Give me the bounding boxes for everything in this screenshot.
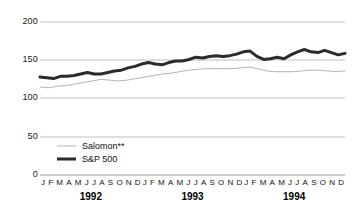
x-axis-month-tick: J — [143, 176, 147, 189]
series-line-salomon — [40, 67, 345, 88]
x-axis-month-tick: J — [288, 176, 292, 189]
x-axis-month-tick: O — [218, 176, 224, 189]
x-axis-month-tick: M — [260, 176, 267, 189]
x-axis-month-tick: M — [158, 176, 165, 189]
x-axis-month-tick: J — [244, 176, 248, 189]
x-axis-year-1992: 1992 — [40, 190, 142, 204]
x-axis-month-labels: JFMAMJJASONDJFMAMJJASONDJFMAMJJASOND — [40, 176, 345, 189]
x-axis-month-tick: M — [75, 176, 82, 189]
x-axis-year-1994: 1994 — [243, 190, 345, 204]
x-axis-year-labels: 1992 1993 1994 — [40, 190, 345, 204]
x-axis-month-tick: S — [311, 176, 316, 189]
x-axis-month-tick: D — [338, 176, 344, 189]
x-axis-month-tick: D — [135, 176, 141, 189]
x-axis-month-tick: A — [99, 176, 104, 189]
x-axis-month-tick: J — [85, 176, 89, 189]
x-axis-month-tick: F — [252, 176, 257, 189]
x-axis-year-1993: 1993 — [142, 190, 244, 204]
x-axis-month-tick: F — [150, 176, 155, 189]
x-axis-month-tick: A — [201, 176, 206, 189]
x-axis-month-tick: S — [108, 176, 113, 189]
x-axis-month-block-1994: JFMAMJJASOND — [243, 176, 345, 189]
x-axis-month-tick: M — [56, 176, 63, 189]
x-axis-month-tick: M — [177, 176, 184, 189]
legend-item-salomon: Salomon** — [57, 140, 177, 152]
x-axis-month-tick: J — [92, 176, 96, 189]
x-axis-month-tick: A — [66, 176, 71, 189]
x-axis-month-tick: A — [270, 176, 275, 189]
legend-swatch-sp500 — [57, 156, 76, 162]
x-axis-month-tick: N — [126, 176, 132, 189]
legend-item-sp500: S&P 500 — [57, 153, 177, 165]
x-axis-month-tick: J — [41, 176, 45, 189]
x-axis-month-tick: N — [329, 176, 335, 189]
x-axis-month-block-1992: JFMAMJJASOND — [40, 176, 142, 189]
x-axis-month-tick: S — [209, 176, 214, 189]
chart-legend: Salomon** S&P 500 — [57, 140, 177, 166]
x-axis-month-tick: F — [48, 176, 53, 189]
x-axis-month-block-1993: JFMAMJJASOND — [142, 176, 244, 189]
x-axis-month-tick: A — [168, 176, 173, 189]
legend-label-salomon: Salomon** — [82, 140, 125, 152]
x-axis-month-tick: A — [303, 176, 308, 189]
x-axis-month-tick: O — [116, 176, 122, 189]
legend-label-sp500: S&P 500 — [82, 153, 117, 165]
x-axis-month-tick: D — [237, 176, 243, 189]
x-axis-month-tick: J — [186, 176, 190, 189]
x-axis-month-tick: O — [320, 176, 326, 189]
series-line-sp500 — [40, 50, 345, 79]
x-axis-month-tick: N — [228, 176, 234, 189]
x-axis-month-tick: J — [295, 176, 299, 189]
x-axis-month-tick: J — [194, 176, 198, 189]
x-axis-month-tick: M — [278, 176, 285, 189]
legend-swatch-salomon — [57, 143, 76, 149]
chart-container: 200 150 100 50 0 Salomon** S&P 500 JFMAM… — [0, 0, 361, 217]
